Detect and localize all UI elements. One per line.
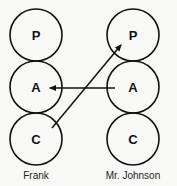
johnson-parent-label: P [129,28,138,43]
frank-name-label: Frank [23,170,50,181]
johnson-ego-states: P A C Mr. Johnson [106,9,160,181]
frank-parent-label: P [32,28,41,43]
johnson-name-label: Mr. Johnson [106,170,160,181]
johnson-adult-label: A [128,80,138,95]
frank-child-label: C [31,132,41,147]
transaction-diagram: P A C Frank P A C Mr. Johnson [0,0,177,186]
frank-ego-states: P A C Frank [10,9,62,181]
johnson-child-label: C [128,132,138,147]
frank-adult-label: A [31,80,41,95]
